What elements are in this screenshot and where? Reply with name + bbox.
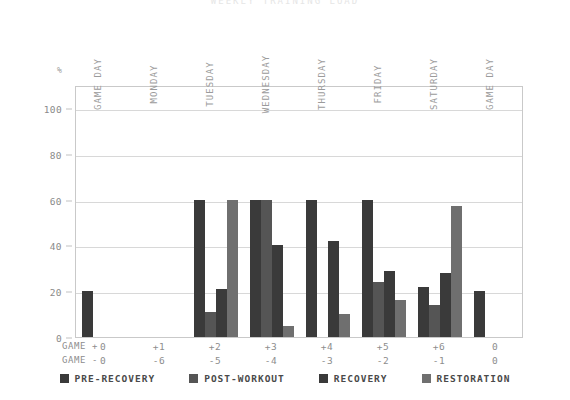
y-tick-mark [66,108,72,109]
axis-row-value: -5 [209,355,221,366]
y-tick-mark [66,200,72,201]
bar-group [412,87,468,337]
day-header: WEDNESDAY [243,0,299,84]
legend-swatch-icon [319,374,328,383]
legend-item[interactable]: POST-WORKOUT [189,373,285,384]
y-tick-label: 60 [50,195,62,206]
day-header-label: WEDNESDAY [261,55,271,114]
day-header: MONDAY [131,0,187,84]
bar-group-bars [356,87,412,337]
bar-group [76,87,132,337]
bar[interactable] [250,200,261,337]
bar[interactable] [82,291,93,337]
bar[interactable] [306,200,317,337]
bar-group [468,87,524,337]
axis-row-value: -6 [153,355,165,366]
day-header-label: GAME DAY [485,58,495,110]
percent-symbol: % [57,66,62,75]
bar-group [188,87,244,337]
axis-row-label: GAME - [62,355,98,365]
bar[interactable] [205,312,216,337]
day-header: SATURDAY [411,0,467,84]
axis-row-value: -4 [265,355,277,366]
day-header-label: GAME DAY [93,58,103,110]
bar-group [300,87,356,337]
axis-row-value: +2 [209,341,221,352]
bar-group-bars [300,87,356,337]
legend-label: RESTORATION [437,373,511,384]
axis-row-value: -2 [377,355,389,366]
bar-group-bars [188,87,244,337]
legend-label: POST-WORKOUT [204,373,285,384]
bar[interactable] [418,287,429,337]
axis-row-value: 0 [492,341,498,352]
legend-swatch-icon [189,374,198,383]
axis-row-value: -3 [321,355,333,366]
bar[interactable] [194,200,205,337]
bar[interactable] [216,289,227,337]
bar[interactable] [227,200,238,337]
day-header: THURSDAY [299,0,355,84]
axis-row-value: 0 [100,355,106,366]
axis-row-value: +1 [153,341,165,352]
y-tick-label: 100 [44,103,62,114]
bar[interactable] [362,200,373,337]
legend-item[interactable]: PRE-RECOVERY [60,373,156,384]
axis-row-value: 0 [492,355,498,366]
y-tick-mark [66,246,72,247]
bar[interactable] [373,282,384,337]
day-header: TUESDAY [187,0,243,84]
bar[interactable] [261,200,272,337]
day-header-label: SATURDAY [429,58,439,110]
axis-row-label: GAME + [62,341,98,351]
bar[interactable] [395,300,406,337]
axis-row-value: 0 [100,341,106,352]
bar-group [244,87,300,337]
bar[interactable] [429,305,440,337]
axis-row-value: +6 [433,341,445,352]
bar-group [132,87,188,337]
chart-root: WEEKLY TRAINING LOAD % % EFFORT 02040608… [0,0,570,400]
y-axis-ticks: 020406080100 [0,86,72,338]
bar[interactable] [339,314,350,337]
bar-group-bars [468,87,524,337]
bar-group [356,87,412,337]
day-header-label: MONDAY [149,64,159,103]
day-header: FRIDAY [355,0,411,84]
day-header: GAME DAY [467,0,523,84]
axis-row-value: -1 [433,355,445,366]
y-tick-label: 80 [50,149,62,160]
day-header-label: FRIDAY [373,64,383,103]
bar[interactable] [384,271,395,337]
axis-row-value: +4 [321,341,333,352]
bar-group-bars [412,87,468,337]
bar-group-bars [244,87,300,337]
legend-label: PRE-RECOVERY [75,373,156,384]
y-tick-label: 40 [50,241,62,252]
bar[interactable] [440,273,451,337]
axis-row-value: +5 [377,341,389,352]
legend-item[interactable]: RESTORATION [422,373,511,384]
bar[interactable] [272,245,283,337]
bar[interactable] [328,241,339,337]
y-tick-mark [66,338,72,339]
bar[interactable] [451,206,462,337]
bar[interactable] [283,326,294,337]
day-header: GAME DAY [75,0,131,84]
y-tick-label: 20 [50,287,62,298]
day-header-label: TUESDAY [205,61,215,107]
day-header-label: THURSDAY [317,58,327,110]
y-tick-mark [66,154,72,155]
legend-swatch-icon [422,374,431,383]
plot-area [75,86,523,338]
chart-legend: PRE-RECOVERYPOST-WORKOUTRECOVERYRESTORAT… [0,373,570,384]
axis-row-value: +3 [265,341,277,352]
legend-label: RECOVERY [334,373,388,384]
legend-swatch-icon [60,374,69,383]
bar[interactable] [474,291,485,337]
y-tick-mark [66,292,72,293]
legend-item[interactable]: RECOVERY [319,373,388,384]
bar-group-bars [76,87,132,337]
bar-group-bars [132,87,188,337]
